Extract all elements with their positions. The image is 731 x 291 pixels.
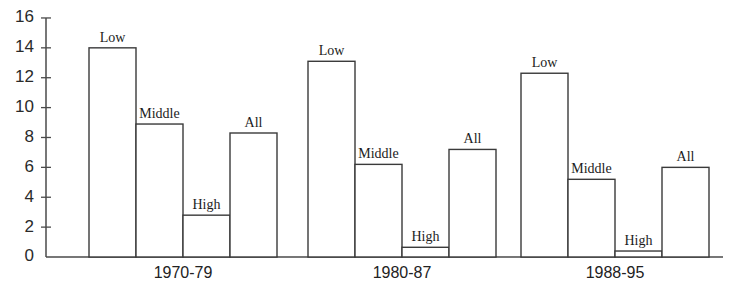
y-tick-label: 4 <box>25 187 34 206</box>
bar-value-label: All <box>245 115 263 130</box>
bar-value-label: Low <box>532 55 559 70</box>
bar <box>402 247 449 257</box>
bar <box>662 167 709 257</box>
y-tick-label: 10 <box>15 97 34 116</box>
bar <box>89 48 136 257</box>
bars-layer <box>89 48 709 257</box>
bar <box>230 133 277 257</box>
y-tick-label: 6 <box>25 157 34 176</box>
bar-value-label: All <box>677 149 695 164</box>
x-axis-group-label: 1970-79 <box>154 264 213 281</box>
bar <box>521 73 568 257</box>
bar <box>568 179 615 257</box>
chart-canvas: 0246810121416 LowMiddleHighAllLowMiddleH… <box>0 0 731 291</box>
bar <box>615 251 662 257</box>
y-tick-label: 0 <box>25 246 34 265</box>
bar-value-label: Low <box>100 30 127 45</box>
y-tick-label: 8 <box>25 127 34 146</box>
bar-chart-figure: 0246810121416 LowMiddleHighAllLowMiddleH… <box>0 0 731 291</box>
bar-value-label: High <box>193 197 221 212</box>
x-axis-group-label: 1988-95 <box>586 264 645 281</box>
bar-value-label: High <box>412 229 440 244</box>
y-tick-label: 2 <box>25 217 34 236</box>
bar-value-label: Middle <box>571 161 611 176</box>
bar <box>136 124 183 257</box>
bar-value-label: Middle <box>358 146 398 161</box>
bar-value-label: Low <box>319 43 346 58</box>
bar <box>308 61 355 257</box>
y-tick-label: 12 <box>15 67 34 86</box>
bar-value-label: High <box>625 233 653 248</box>
bar-value-label: All <box>464 131 482 146</box>
bar-value-label: Middle <box>139 106 179 121</box>
y-tick-label: 14 <box>15 37 34 56</box>
y-tick-label: 16 <box>15 7 34 26</box>
y-axis: 0246810121416 <box>15 7 51 265</box>
bar <box>183 215 230 257</box>
bar <box>355 164 402 257</box>
group-labels-layer: 1970-791980-871988-95 <box>154 264 645 281</box>
bar <box>449 149 496 257</box>
x-axis-group-label: 1980-87 <box>373 264 432 281</box>
